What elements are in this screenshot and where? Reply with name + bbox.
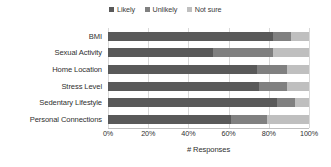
bar-row[interactable]	[108, 48, 309, 57]
category-axis-labels: BMISexual ActivityHome LocationStress Le…	[0, 28, 105, 128]
bar-segment[interactable]	[108, 82, 259, 91]
bar-segment[interactable]	[108, 98, 277, 107]
legend-item-unlikely[interactable]: Unlikely	[145, 6, 177, 13]
bar-segment[interactable]	[291, 32, 309, 41]
bar-segment[interactable]	[108, 48, 213, 57]
legend-item-label: Not sure	[195, 6, 222, 13]
x-tick-label: 80%	[262, 130, 276, 137]
x-tick-label: 100%	[300, 130, 318, 137]
legend-item-likely[interactable]: Likely	[109, 6, 135, 13]
category-label: Home Location	[52, 66, 102, 74]
bar-row[interactable]	[108, 32, 309, 41]
plot-wrapper: BMISexual ActivityHome LocationStress Le…	[0, 28, 331, 132]
category-label: Stress Level	[61, 83, 102, 91]
bar-series-container	[108, 28, 309, 128]
category-label: Sedentary Lifestyle	[39, 99, 102, 107]
bar-row[interactable]	[108, 82, 309, 91]
legend-item-not-sure[interactable]: Not sure	[187, 6, 221, 13]
x-axis-line	[108, 128, 309, 129]
bar-row[interactable]	[108, 65, 309, 74]
bar-row[interactable]	[108, 98, 309, 107]
bar-segment[interactable]	[287, 82, 309, 91]
plot-area	[108, 28, 309, 128]
x-tick-label: 20%	[141, 130, 155, 137]
bar-segment[interactable]	[277, 98, 295, 107]
bar-segment[interactable]	[273, 32, 291, 41]
bar-segment[interactable]	[213, 48, 273, 57]
x-axis-ticks: 0%20%40%60%80%100%	[108, 130, 309, 142]
x-tick-label: 60%	[222, 130, 236, 137]
chart-legend: Likely Unlikely Not sure	[0, 6, 331, 13]
x-tick-label: 40%	[181, 130, 195, 137]
legend-swatch-icon	[145, 7, 150, 12]
category-label: Sexual Activity	[55, 49, 102, 57]
bar-segment[interactable]	[257, 65, 287, 74]
category-label: BMI	[89, 33, 102, 41]
bar-segment[interactable]	[108, 32, 273, 41]
category-label: Personal Connections	[30, 116, 102, 124]
stacked-bar-chart: Likely Unlikely Not sure BMISexual Activ…	[0, 0, 331, 167]
bar-row[interactable]	[108, 115, 309, 124]
legend-swatch-icon	[187, 7, 192, 12]
bar-segment[interactable]	[231, 115, 267, 124]
legend-swatch-icon	[109, 7, 114, 12]
bar-segment[interactable]	[259, 82, 287, 91]
legend-item-label: Unlikely	[153, 6, 178, 13]
bar-segment[interactable]	[267, 115, 309, 124]
bar-segment[interactable]	[295, 98, 309, 107]
bar-segment[interactable]	[108, 115, 231, 124]
legend-item-label: Likely	[117, 6, 135, 13]
x-tick-label: 0%	[103, 130, 113, 137]
bar-segment[interactable]	[108, 65, 257, 74]
x-axis-title: # Responses	[108, 146, 309, 154]
gridline	[309, 28, 310, 128]
bar-segment[interactable]	[273, 48, 309, 57]
bar-segment[interactable]	[287, 65, 309, 74]
